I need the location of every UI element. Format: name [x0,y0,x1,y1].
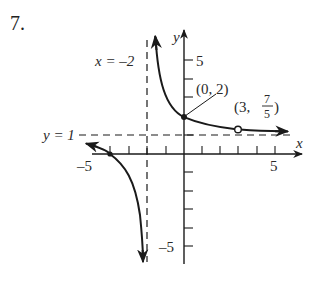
vertical-asymptote-label: x = –2 [94,53,135,69]
y-tick-label-5: 5 [196,53,204,69]
x-tick-label-5: 5 [270,158,278,174]
rational-function-graph: y x 5 –5 5 –5 x = –2 y = 1 (0, 2) (3, 7 … [0,0,315,281]
horizontal-asymptote-label: y = 1 [41,127,75,143]
y-axis-label: y [171,29,180,45]
x-ticks [110,146,275,154]
y-ticks [184,60,193,246]
y-tick-label-neg5: –5 [158,239,174,255]
svg-text:7: 7 [264,92,270,106]
svg-text:): ) [274,99,279,116]
arrow-right-branch-up [155,36,156,50]
svg-text:5: 5 [264,107,270,121]
hole-point [235,126,242,133]
x-intercept-point [107,151,112,156]
x-tick-label-neg5: –5 [76,158,92,174]
svg-text:(3,: (3, [234,99,250,116]
x-axis-label: x [295,135,303,151]
curve-left-branch [88,144,143,258]
y-intercept-label: (0, 2) [196,81,229,98]
hole-label: (3, 7 5 ) [234,92,279,121]
